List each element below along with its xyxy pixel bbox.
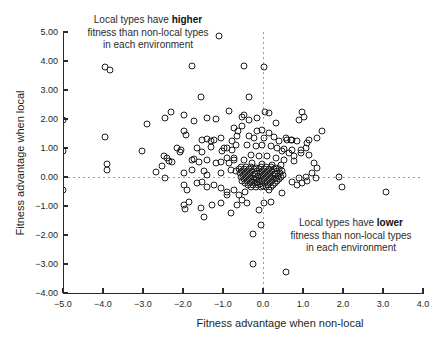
data-point [291,153,298,160]
data-point [306,151,313,158]
data-point [104,167,111,174]
data-point [319,127,326,134]
data-point [256,153,263,160]
x-tick-label: 1.0 [288,299,318,309]
data-point [188,62,195,69]
data-point [313,174,320,181]
data-point [304,178,311,185]
data-point [204,115,211,122]
data-point [208,202,215,209]
annotation-lower-line2: fitness than non-local types [276,230,426,243]
data-point [276,138,283,145]
y-tick-label: −1.00 [24,201,58,211]
data-point [298,147,305,154]
data-point [296,174,303,181]
data-point [186,198,193,205]
data-point [230,124,237,131]
y-tick-label: 4.00 [24,56,58,66]
data-point [248,151,255,158]
annotation-higher-line3: in each environment [73,39,223,52]
x-tick-label: −3.0 [128,299,158,309]
data-point [180,111,187,118]
y-tick-label: 5.00 [24,27,58,37]
data-point [242,189,249,196]
data-point [250,135,257,142]
x-tick-label: 4.0 [408,299,438,309]
x-tick-label: 3.0 [368,299,398,309]
data-point [218,135,225,142]
data-point [210,136,217,143]
y-tick-label: 0.00 [24,172,58,182]
y-axis-title: Fitness advantage when local [14,91,26,236]
y-tick-label: 3.00 [24,85,58,95]
data-point [228,209,235,216]
data-point [234,202,241,209]
scatter-plot-figure: 5.004.003.002.001.000.00−1.00−2.00−3.00−… [0,0,446,345]
data-point [144,120,151,127]
data-point [240,156,247,163]
data-point [162,115,169,122]
data-point [204,171,211,178]
data-point [244,142,251,149]
data-point [254,115,261,122]
data-point [218,200,225,207]
data-point [283,269,290,276]
data-point [63,147,67,154]
data-point [246,93,253,100]
data-point [224,191,231,198]
x-tick-label: 2.0 [328,299,358,309]
data-point [158,162,165,169]
data-point [258,222,265,229]
data-point [250,231,257,238]
data-point [250,261,257,268]
data-point [226,107,233,114]
data-point [289,136,296,143]
data-point [198,93,205,100]
data-point [188,167,195,174]
data-point [268,184,275,191]
data-point [266,109,273,116]
data-point [176,149,183,156]
data-point [182,205,189,212]
data-point [258,127,265,134]
data-point [239,113,246,120]
data-point [383,188,390,195]
x-tick-label: −1.0 [208,299,238,309]
data-point [198,205,205,212]
data-point [208,144,215,151]
y-tick-label: −3.00 [24,259,58,269]
data-point [63,117,67,124]
annotation-higher: Local types have higher fitness than non… [73,14,223,52]
data-point [228,147,235,154]
data-point [200,214,207,221]
data-point [198,149,205,156]
data-point [218,169,225,176]
annotation-lower-line3: in each environment [276,242,426,255]
data-point [196,158,203,165]
data-point [314,135,321,142]
data-point [168,109,175,116]
data-point [261,64,268,71]
data-point [180,169,187,176]
data-point [184,187,191,194]
data-point [102,133,109,140]
data-point [264,153,271,160]
data-point [224,154,231,161]
data-point [107,67,114,74]
data-point [218,147,225,154]
annotation-lower-bold: lower [377,217,403,228]
y-tick-label: −2.00 [24,230,58,240]
data-point [204,156,211,163]
y-tick-label: −4.00 [24,288,58,298]
data-point [152,169,159,176]
data-point [212,116,219,123]
y-tick-label: 2.00 [24,114,58,124]
annotation-lower-pre: Local types have [299,217,377,228]
data-point [240,62,247,69]
x-tick-label: 0.0 [248,299,278,309]
data-point [261,135,268,142]
x-tick-label: −2.0 [168,299,198,309]
data-point [246,116,253,123]
data-point [336,174,343,181]
data-point [273,120,280,127]
